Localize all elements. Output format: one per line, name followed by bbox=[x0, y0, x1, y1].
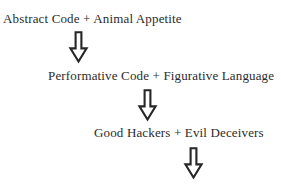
arrow-down-outline-icon bbox=[69, 31, 88, 63]
stage-label-1: Abstract Code + Animal Appetite bbox=[3, 11, 182, 26]
stage-label-3: Good Hackers + Evil Deceivers bbox=[94, 125, 264, 140]
arrow-down-outline-icon bbox=[184, 147, 203, 179]
diagram-canvas: Abstract Code + Animal Appetite Performa… bbox=[0, 0, 281, 188]
arrow-down-outline-icon bbox=[138, 89, 157, 121]
stage-label-2: Performative Code + Figurative Language bbox=[48, 68, 274, 83]
